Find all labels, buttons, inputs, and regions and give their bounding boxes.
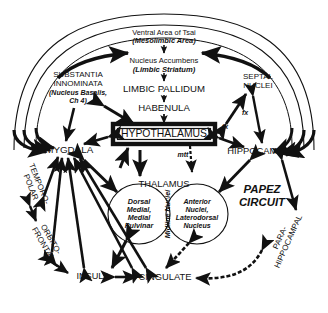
node-hypothalamus-box: HYPOTHALAMUS [113, 124, 215, 144]
node-insula: INSULA [76, 271, 110, 281]
node-hypothalamus-label: HYPOTHALAMUS [121, 128, 207, 139]
node-substantia-innominata-line1: SUBSTANTIA [53, 70, 103, 79]
node-septal-nuclei-line1: SEPTAL [243, 72, 274, 81]
node-limbic-pallidum: LIMBIC PALLIDUM [123, 83, 205, 94]
thalamus-midline-nuclei: Midline Nuclei [163, 189, 172, 238]
tract-label-fx-septal: fx [242, 109, 249, 116]
tract-label-mtt: mtt [178, 151, 190, 158]
thalamus-anterior-line4: Nucleus [183, 222, 210, 229]
thalamus-anterior-line1: Anterior [182, 198, 212, 205]
node-septal-nuclei-line2: NUCLEI [243, 81, 272, 90]
node-substantia-innominata-line3: (Nucleus Basalis, [49, 89, 107, 97]
label-papez-circuit-line2: CIRCUIT [239, 196, 286, 208]
thalamus-anterior-line2: Nuclei, [186, 206, 209, 214]
thalamus-dorsomedial-line4: Pulvinar [125, 221, 155, 230]
node-substantia-innominata-line2: INNOMINATA [53, 79, 103, 88]
tract-label-fx-hypothalamus: fx [222, 123, 229, 130]
label-papez-circuit-line1: PAPEZ [243, 183, 281, 195]
node-substantia-innominata-line4: Ch 4) [69, 97, 87, 105]
node-habenula: HABENULA [138, 102, 190, 113]
node-hippocampus: HIPPOCAMPUS [227, 145, 296, 156]
thalamus-anterior-line3: Laterodorsal [176, 214, 219, 221]
limbic-system-diagram: Ventral Area of Tsai (Mesolimbic Area) N… [0, 0, 328, 313]
node-ventral-tegmental-area-line2: (Mesolimbic Area) [132, 36, 196, 45]
node-amygdala: AMYGDALA [39, 144, 94, 155]
node-nucleus-accumbens-line2: (Limbic Striatum) [133, 65, 196, 74]
node-cingulate: CINGULATE [139, 271, 192, 282]
